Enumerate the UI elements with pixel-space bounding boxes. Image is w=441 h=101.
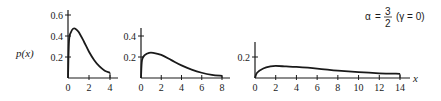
x-tick-label: 0: [139, 82, 144, 93]
panel-2: 0.20.402468: [124, 28, 231, 93]
chart-canvas: p(x) 0.20.40.60240.20.4024680.2024681012…: [0, 0, 441, 101]
x-tick-label: 4: [294, 82, 299, 93]
x-tick-label: 8: [335, 82, 340, 93]
x-tick-label: 8: [220, 82, 225, 93]
panel-1: 0.20.40.6024: [51, 10, 119, 94]
x-tick-label: 0: [253, 82, 258, 93]
y-tick-label: 0.2: [51, 52, 64, 63]
y-tick-label: 0.2: [124, 52, 137, 63]
density-curve: [68, 28, 110, 78]
panel-3: 0.202468101214x: [238, 42, 419, 93]
y-tick-label: 0.6: [51, 10, 64, 21]
y-axis-label: p(x): [15, 47, 34, 60]
equals-sign: =: [375, 11, 381, 22]
x-tick-label: 2: [159, 82, 164, 93]
x-tick-label: 2: [273, 82, 278, 93]
x-tick-label: 12: [374, 82, 384, 93]
y-tick-label: 0.4: [51, 31, 64, 42]
fraction-numerator: 3: [385, 6, 391, 17]
x-tick-label: 6: [315, 82, 320, 93]
parameter-annotation: α = 3 2 (γ = 0): [365, 6, 425, 29]
alpha-symbol: α: [365, 11, 371, 22]
x-axis-label: x: [412, 72, 418, 84]
x-tick-label: 6: [199, 82, 204, 93]
density-curve: [255, 66, 400, 78]
x-tick-label: 0: [66, 82, 71, 93]
x-tick-label: 4: [179, 82, 184, 93]
gamma-condition: (γ = 0): [396, 11, 425, 22]
y-tick-label: 0.4: [124, 31, 137, 42]
x-tick-label: 4: [108, 82, 113, 93]
x-tick-label: 14: [395, 82, 405, 93]
density-curve: [141, 53, 222, 78]
x-tick-label: 2: [87, 82, 92, 93]
x-tick-label: 10: [354, 82, 364, 93]
fraction-denominator: 2: [385, 18, 391, 29]
y-tick-label: 0.2: [238, 52, 251, 63]
